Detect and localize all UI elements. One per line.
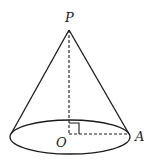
right-angle-marker [69,123,79,134]
label-P: P [64,10,74,25]
label-O: O [56,135,67,150]
cone-right-edge [69,30,129,134]
label-A: A [134,129,144,144]
cone-left-edge [11,30,69,134]
cone-diagram: P O A [0,0,152,165]
cone-base-ellipse [10,120,130,154]
